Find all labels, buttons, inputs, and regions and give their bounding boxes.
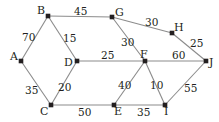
node-label-I: I xyxy=(164,106,168,117)
edge-weight-G-H: 30 xyxy=(145,17,158,28)
node-label-J: J xyxy=(209,57,213,68)
edge-weight-F-J: 60 xyxy=(172,50,185,61)
graph-edge-A-C xyxy=(21,61,51,105)
node-label-D: D xyxy=(64,57,73,68)
edge-weight-B-D: 15 xyxy=(63,33,76,44)
node-label-F: F xyxy=(140,49,148,60)
graph-node-J[interactable] xyxy=(204,59,209,64)
graph-node-D[interactable] xyxy=(75,59,80,64)
edge-weight-G-F: 30 xyxy=(121,37,134,48)
node-label-B: B xyxy=(37,5,45,16)
graph-canvas xyxy=(0,0,219,122)
edge-weight-H-J: 25 xyxy=(190,38,203,49)
edge-weight-B-G: 45 xyxy=(74,6,87,17)
node-label-C: C xyxy=(40,106,48,117)
graph-edge-G-H xyxy=(112,17,172,33)
graph-node-A[interactable] xyxy=(19,59,24,64)
node-label-E: E xyxy=(114,106,122,117)
edge-weight-F-I: 10 xyxy=(150,80,163,91)
edge-weight-I-J: 55 xyxy=(184,83,197,94)
edge-weight-A-B: 70 xyxy=(22,32,35,43)
edge-weight-D-F: 25 xyxy=(101,50,114,61)
edge-weight-F-E: 40 xyxy=(118,80,131,91)
edge-weight-C-E: 50 xyxy=(78,107,91,118)
node-label-A: A xyxy=(10,51,18,62)
node-label-H: H xyxy=(174,22,184,33)
graph-node-B[interactable] xyxy=(46,14,51,19)
graph-diagram: 703515452050253030256040103555ABCDEFGHIJ xyxy=(0,0,219,122)
edge-weight-E-I: 35 xyxy=(137,107,150,118)
graph-node-G[interactable] xyxy=(110,15,115,20)
node-label-G: G xyxy=(115,7,124,18)
edge-weight-A-C: 35 xyxy=(25,85,38,96)
edge-weight-C-D: 20 xyxy=(58,82,71,93)
graph-node-C[interactable] xyxy=(49,103,54,108)
